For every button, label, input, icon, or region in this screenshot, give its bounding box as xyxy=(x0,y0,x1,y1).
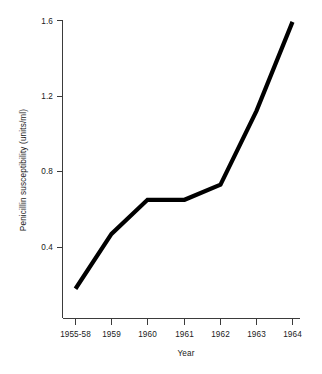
y-tick-label-0.8: 0.8 xyxy=(41,167,53,176)
y-axis-title: Penicillin susceptibility (units/ml) xyxy=(19,109,28,231)
chart-figure: 1.6 1.2 0.8 0.4 1955-58 1959 1960 1961 1… xyxy=(0,0,322,374)
x-tick-label-1960: 1960 xyxy=(138,330,157,339)
line-chart-canvas: 1.6 1.2 0.8 0.4 1955-58 1959 1960 1961 1… xyxy=(0,0,322,374)
x-tick-label-1962: 1962 xyxy=(211,330,230,339)
x-tick-label-1964: 1964 xyxy=(283,330,302,339)
y-tick-label-1.6: 1.6 xyxy=(41,17,53,26)
x-tick-label-1955-58: 1955-58 xyxy=(60,330,91,339)
chart-background xyxy=(0,0,322,374)
x-axis-title: Year xyxy=(177,349,194,358)
x-tick-label-1961: 1961 xyxy=(175,330,194,339)
y-tick-label-1.2: 1.2 xyxy=(41,92,53,101)
x-tick-label-1963: 1963 xyxy=(247,330,266,339)
y-tick-label-0.4: 0.4 xyxy=(41,243,53,252)
x-tick-label-1959: 1959 xyxy=(102,330,121,339)
